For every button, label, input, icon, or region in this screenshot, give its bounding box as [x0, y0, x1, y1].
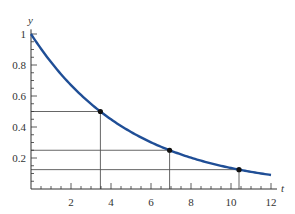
x-tick-label: 10: [226, 196, 238, 208]
decay-chart: y t 246810120.20.40.60.81: [0, 0, 295, 214]
y-axis-label: y: [27, 14, 33, 26]
y-tick-label: 0.6: [12, 90, 26, 102]
decay-curve: [31, 34, 271, 175]
x-tick-label: 8: [188, 196, 194, 208]
marked-point: [236, 167, 241, 172]
x-tick-label: 2: [68, 196, 74, 208]
axes: [31, 29, 277, 189]
x-tick-label: 6: [148, 196, 154, 208]
marked-point: [167, 148, 172, 153]
y-tick-label: 0.4: [12, 121, 26, 133]
y-tick-label: 0.2: [12, 152, 26, 164]
x-tick-label: 12: [266, 196, 277, 208]
marked-point: [98, 109, 103, 114]
y-tick-label: 0.8: [12, 59, 26, 71]
x-tick-label: 4: [108, 196, 114, 208]
guide-lines: [31, 112, 239, 190]
y-tick-label: 1: [21, 28, 27, 40]
x-axis-label: t: [281, 182, 285, 194]
tick-labels: 246810120.20.40.60.81: [12, 28, 276, 208]
